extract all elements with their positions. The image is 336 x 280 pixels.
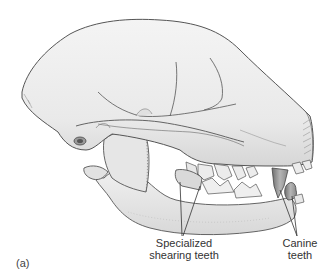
label-shearing-line2: shearing teeth xyxy=(146,249,222,261)
label-canine-teeth: Canine teeth xyxy=(275,237,325,261)
label-canine-line1: Canine xyxy=(275,237,325,249)
panel-label: (a) xyxy=(16,257,29,269)
cranium xyxy=(22,19,313,166)
label-shearing-line1: Specialized xyxy=(146,237,222,249)
label-shearing-teeth: Specialized shearing teeth xyxy=(146,237,222,261)
skull-figure: Specialized shearing teeth Canine teeth … xyxy=(0,0,336,280)
label-canine-line2: teeth xyxy=(275,249,325,261)
